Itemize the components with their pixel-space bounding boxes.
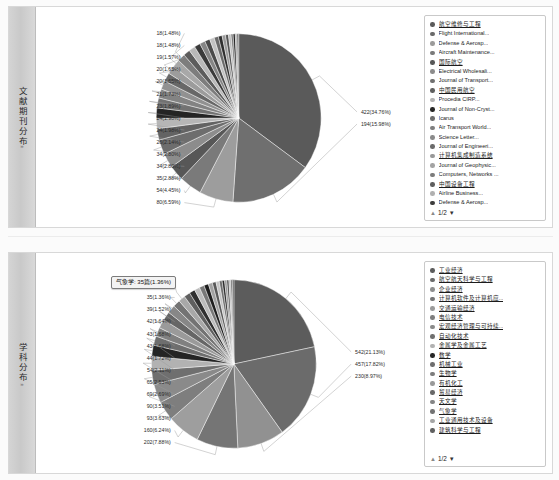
subject-legend-item-11[interactable]: 生物学 — [430, 369, 541, 378]
subject-pie-label: 43(1.68%) — [147, 343, 171, 349]
journal-legend-item-8[interactable]: Procedia CIRP... — [430, 95, 541, 104]
legend-color-swatch-icon — [430, 201, 435, 206]
legend-color-swatch-icon — [430, 297, 435, 302]
legend-item-label[interactable]: Journal of Non-Cryst... — [439, 105, 495, 114]
legend-item-label[interactable]: Airline Business... — [439, 189, 483, 198]
journal-legend-item-11[interactable]: Air Transport World... — [430, 123, 541, 132]
journal-legend-item-18[interactable]: Airline Business... — [430, 189, 541, 198]
legend-item-label[interactable]: 航空维修与工程 — [439, 20, 481, 29]
subject-legend-item-5[interactable]: 电信技术 — [430, 313, 541, 322]
subject-pie-label: 93(3.63%) — [147, 415, 171, 421]
legend-item-label[interactable]: 宏观经济管理与可持续... — [439, 322, 504, 331]
journal-legend-item-6[interactable]: Journal of Transport... — [430, 76, 541, 85]
legend-item-label[interactable]: Journal of Geophysic... — [439, 161, 496, 170]
journal-legend-item-9[interactable]: Journal of Non-Cryst... — [430, 105, 541, 114]
journal-legend-item-4[interactable]: 国际航空 — [430, 58, 541, 67]
subject-legend-item-17[interactable]: 建筑科学与工程 — [430, 426, 541, 435]
subject-legend-item-6[interactable]: 宏观经济管理与可持续... — [430, 322, 541, 331]
legend-item-label[interactable]: Procedia CIRP... — [439, 95, 480, 104]
legend-item-label[interactable]: 交通运输经济 — [439, 304, 475, 313]
journal-legend-item-0[interactable]: 航空维修与工程 — [430, 20, 541, 29]
legend-item-label[interactable]: 工业经济 — [439, 266, 463, 275]
legend-item-label[interactable]: 金属学及金属工艺 — [439, 341, 487, 350]
subject-legend-item-4[interactable]: 交通运输经济 — [430, 304, 541, 313]
legend-item-label[interactable]: Icarus — [439, 114, 454, 123]
subject-legend-item-10[interactable]: 机械工业 — [430, 360, 541, 369]
journal-legend-item-2[interactable]: Defense & Aerosp... — [430, 39, 541, 48]
legend-item-label[interactable]: Flight International... — [439, 29, 490, 38]
subject-legend-item-8[interactable]: 金属学及金属工艺 — [430, 341, 541, 350]
subject-legend-list[interactable]: 工业经济航空航天科学与工程企业经济计算机软件及计算机应...交通运输经济电信技术… — [430, 266, 541, 454]
journal-legend-item-7[interactable]: 中国民用航空 — [430, 86, 541, 95]
legend-item-label[interactable]: 贸易经济 — [439, 388, 463, 397]
legend-item-label[interactable]: 有机化工 — [439, 379, 463, 388]
legend-item-label[interactable]: 气象学 — [439, 407, 457, 416]
journal-panel-side-tab[interactable]: 文献期刊分布 » — [9, 7, 36, 227]
journal-legend-item-17[interactable]: 中国设备工程 — [430, 180, 541, 189]
legend-item-label[interactable]: Electrical Wholesali... — [439, 67, 492, 76]
journal-legend-item-12[interactable]: Science Letter... — [430, 133, 541, 142]
legend-item-label[interactable]: Defense & Aerosp... — [439, 39, 489, 48]
journal-legend-item-15[interactable]: Journal of Geophysic... — [430, 161, 541, 170]
subject-legend-item-0[interactable]: 工业经济 — [430, 266, 541, 275]
subject-legend-item-14[interactable]: 天文学 — [430, 397, 541, 406]
journal-legend-item-1[interactable]: Flight International... — [430, 29, 541, 38]
journal-legend-item-16[interactable]: Computers, Networks ... — [430, 170, 541, 179]
legend-item-label[interactable]: Journal of Transport... — [439, 76, 493, 85]
legend-page-down-icon[interactable]: ▼ — [449, 210, 455, 216]
legend-item-label[interactable]: 生物学 — [439, 369, 457, 378]
legend-item-label[interactable]: Aircraft Maintenance... — [439, 48, 495, 57]
subject-legend-item-15[interactable]: 气象学 — [430, 407, 541, 416]
journal-legend-item-13[interactable]: Journal of Engineeri... — [430, 142, 541, 151]
legend-page-up-icon[interactable]: ▲ — [430, 456, 436, 462]
subject-legend-pager[interactable]: ▲ 1/2 ▼ — [430, 454, 541, 462]
legend-color-swatch-icon — [430, 126, 435, 131]
legend-page-down-icon[interactable]: ▼ — [449, 456, 455, 462]
legend-item-label[interactable]: 工业通用技术及设备 — [439, 416, 493, 425]
legend-color-swatch-icon — [430, 344, 435, 349]
legend-item-label[interactable]: Science Letter... — [439, 133, 479, 142]
journal-legend-item-3[interactable]: Aircraft Maintenance... — [430, 48, 541, 57]
legend-item-label[interactable]: 机械工业 — [439, 360, 463, 369]
legend-item-label[interactable]: 中国设备工程 — [439, 180, 475, 189]
legend-item-label[interactable]: 建筑科学与工程 — [439, 426, 481, 435]
legend-item-label[interactable]: 自动化技术 — [439, 332, 469, 341]
subject-legend-item-1[interactable]: 航空航天科学与工程 — [430, 275, 541, 284]
legend-item-label[interactable]: 电信技术 — [439, 313, 463, 322]
journal-legend-item-5[interactable]: Electrical Wholesali... — [430, 67, 541, 76]
subject-legend-item-2[interactable]: 企业经济 — [430, 285, 541, 294]
legend-item-label[interactable]: 天文学 — [439, 397, 457, 406]
legend-item-label[interactable]: 中国民用航空 — [439, 86, 475, 95]
subject-pie-slices[interactable] — [151, 280, 316, 448]
journal-legend-pager[interactable]: ▲ 1/2 ▼ — [430, 208, 541, 216]
legend-page-up-icon[interactable]: ▲ — [430, 210, 436, 216]
subject-legend[interactable]: 工业经济航空航天科学与工程企业经济计算机软件及计算机应...交通运输经济电信技术… — [424, 261, 546, 467]
legend-item-label[interactable]: Computers, Networks ... — [439, 170, 499, 179]
subject-panel-side-tab[interactable]: 学科分布 » — [9, 253, 36, 473]
legend-item-label[interactable]: Journal of Engineeri... — [439, 142, 493, 151]
legend-item-label[interactable]: Air Transport World... — [439, 123, 492, 132]
journal-legend-item-10[interactable]: Icarus — [430, 114, 541, 123]
legend-item-label[interactable]: 计算机软件及计算机应... — [439, 294, 504, 303]
legend-item-label[interactable]: Defense & Aerosp... — [439, 198, 489, 207]
journal-legend-item-19[interactable]: Defense & Aerosp... — [430, 198, 541, 207]
legend-item-label[interactable]: 国际航空 — [439, 58, 463, 67]
subject-legend-item-13[interactable]: 贸易经济 — [430, 388, 541, 397]
journal-distribution-panel: 文献期刊分布 » 422(34.76%)194(15.98%)18(1.48%)… — [8, 6, 553, 228]
subject-pie-label: 54(2.11%) — [147, 367, 171, 373]
legend-color-swatch-icon — [430, 362, 435, 367]
journal-legend-list[interactable]: 航空维修与工程Flight International...Defense & … — [430, 20, 541, 208]
subject-legend-item-16[interactable]: 工业通用技术及设备 — [430, 416, 541, 425]
legend-color-swatch-icon — [430, 315, 435, 320]
journal-legend[interactable]: 航空维修与工程Flight International...Defense & … — [424, 15, 546, 221]
subject-legend-item-12[interactable]: 有机化工 — [430, 379, 541, 388]
legend-item-label[interactable]: 计算机集成制造系统 — [439, 151, 493, 160]
legend-item-label[interactable]: 数学 — [439, 351, 451, 360]
legend-item-label[interactable]: 航空航天科学与工程 — [439, 275, 493, 284]
panel-divider — [8, 236, 553, 237]
subject-legend-item-3[interactable]: 计算机软件及计算机应... — [430, 294, 541, 303]
subject-legend-item-9[interactable]: 数学 — [430, 351, 541, 360]
journal-legend-item-14[interactable]: 计算机集成制造系统 — [430, 151, 541, 160]
subject-legend-item-7[interactable]: 自动化技术 — [430, 332, 541, 341]
legend-item-label[interactable]: 企业经济 — [439, 285, 463, 294]
